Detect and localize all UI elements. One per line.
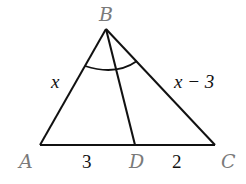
triangle-diagram: B A D C x x − 3 3 2	[0, 0, 246, 184]
point-label-b: B	[98, 3, 113, 25]
diagram-svg: B A D C x x − 3 3 2	[0, 0, 246, 184]
point-label-c: C	[221, 150, 236, 172]
angle-arc-icon	[85, 61, 137, 70]
side-label-bc: x − 3	[173, 71, 214, 92]
point-label-d: D	[128, 150, 144, 172]
segment-bd	[106, 29, 135, 145]
side-label-ab: x	[50, 71, 60, 92]
side-label-dc: 2	[172, 151, 182, 172]
side-label-ad: 3	[82, 151, 92, 172]
side-ab	[40, 29, 106, 145]
point-label-a: A	[17, 150, 33, 172]
